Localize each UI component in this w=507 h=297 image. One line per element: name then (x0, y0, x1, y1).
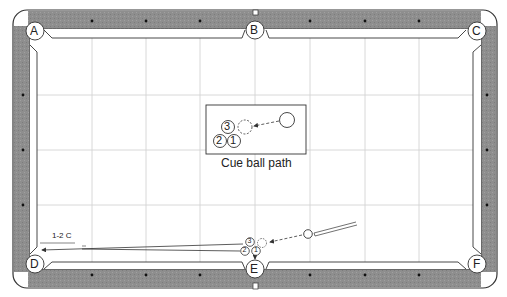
right-rail (481, 26, 496, 272)
pocket-label-d: D (30, 257, 39, 271)
inset-caption: Cue ball path (221, 156, 292, 170)
inset-ball-3-number: 3 (224, 120, 230, 132)
pocket-label-a: A (30, 24, 38, 38)
pocket-label-c: C (472, 24, 481, 38)
cue-ball (304, 230, 313, 239)
pocket-label-f: F (473, 257, 480, 271)
kick-annotation: 1-2 C (52, 231, 72, 240)
pool-table-diagram: A B C D E F 3 2 1 Cue ball path 3 2 1 1-… (0, 0, 507, 297)
inset-box (206, 105, 306, 154)
pocket-label-e: E (250, 262, 258, 276)
inset-ball-1-number: 1 (230, 134, 236, 146)
table-ball-2-number: 2 (243, 246, 247, 253)
left-rail (14, 26, 30, 272)
inset-ball-2-number: 2 (216, 134, 222, 146)
table-ball-1-number: 1 (254, 246, 258, 253)
inset-cue-ball (280, 113, 295, 128)
pocket-label-b: B (250, 23, 258, 37)
table-ball-3-number: 3 (248, 237, 252, 244)
